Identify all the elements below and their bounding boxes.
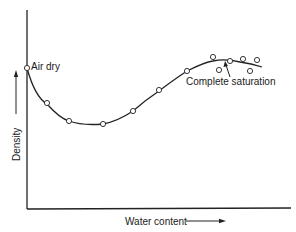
density-curve xyxy=(27,60,262,125)
data-point xyxy=(184,68,189,73)
x-axis-label: Water content xyxy=(125,216,187,227)
data-point xyxy=(24,65,29,70)
density-water-content-chart: Air dry Complete saturation Density Wate… xyxy=(0,0,296,232)
y-axis-arrow-icon xyxy=(14,70,18,114)
data-point xyxy=(227,58,232,63)
data-point xyxy=(210,54,215,59)
data-point xyxy=(216,67,221,72)
data-point xyxy=(130,108,135,113)
data-point xyxy=(66,118,71,123)
data-point xyxy=(100,121,105,126)
data-point xyxy=(247,68,252,73)
data-point xyxy=(254,57,259,62)
x-axis-arrow-icon xyxy=(186,219,226,223)
data-point xyxy=(240,56,245,61)
data-point xyxy=(44,100,49,105)
air-dry-label: Air dry xyxy=(31,61,60,72)
x-axis xyxy=(27,208,291,209)
y-axis-label: Density xyxy=(11,128,22,161)
complete-saturation-label: Complete saturation xyxy=(186,76,276,87)
data-point xyxy=(156,87,161,92)
